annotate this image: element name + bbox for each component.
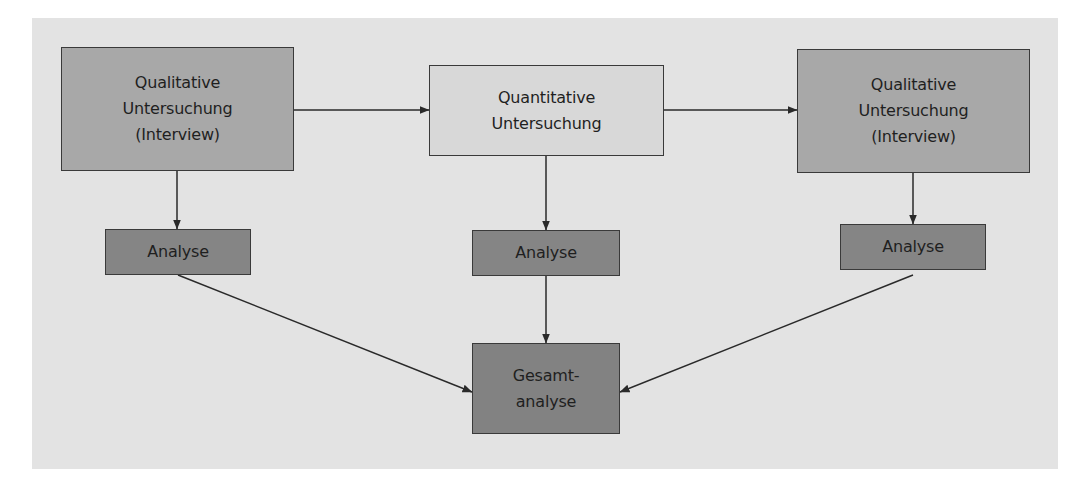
analysis-box-1: Analyse [105, 229, 251, 275]
quantitative-study-box: Quantitative Untersuchung [429, 65, 664, 156]
node-label-line: Qualitative [871, 72, 956, 98]
node-label-line: Untersuchung [859, 98, 969, 124]
node-label-line: Untersuchung [492, 111, 602, 137]
node-label-line: Quantitative [498, 85, 595, 111]
node-label-line: analyse [516, 389, 576, 415]
node-label-line: Gesamt- [513, 363, 580, 389]
node-label-line: Analyse [147, 239, 209, 265]
node-label-line: Qualitative [135, 70, 220, 96]
node-label-line: Untersuchung [123, 96, 233, 122]
qualitative-study-interview-box-1: Qualitative Untersuchung (Interview) [61, 47, 294, 171]
analysis-box-3: Analyse [840, 224, 986, 270]
node-label-line: (Interview) [135, 122, 220, 148]
node-label-line: Analyse [882, 234, 944, 260]
node-label-line: (Interview) [871, 124, 956, 150]
analysis-box-2: Analyse [472, 230, 620, 276]
node-label-line: Analyse [515, 240, 577, 266]
qualitative-study-interview-box-2: Qualitative Untersuchung (Interview) [797, 49, 1030, 173]
overall-analysis-box: Gesamt- analyse [472, 343, 620, 434]
